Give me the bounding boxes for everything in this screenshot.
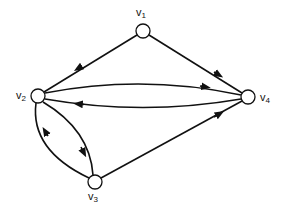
label-v2: v2	[16, 89, 27, 103]
node-v1[interactable]	[136, 24, 150, 38]
label-v1: v1	[136, 6, 147, 20]
arrow-icon	[200, 86, 206, 87]
arrow-icon	[81, 147, 84, 153]
edge-v2-v4	[45, 84, 241, 95]
edge-v2-v3	[43, 102, 93, 175]
arrow-icon	[214, 72, 219, 75]
arrow-icon	[78, 66, 82, 69]
node-v3[interactable]	[88, 175, 102, 189]
label-v3: v3	[88, 190, 99, 204]
arrow-icon	[45, 131, 48, 136]
label-v4: v4	[260, 91, 271, 105]
graph-canvas: v1 v2 v3 v4	[0, 0, 285, 212]
edge-v4-v2	[45, 99, 241, 108]
edge-v3-v4	[101, 101, 242, 178]
edge-v3-v2	[35, 103, 89, 178]
arrow-icon	[78, 104, 84, 105]
node-v4[interactable]	[241, 90, 255, 104]
node-v2[interactable]	[31, 89, 45, 103]
